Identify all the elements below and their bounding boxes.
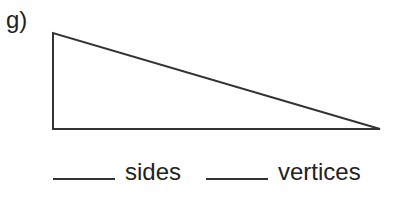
- sides-label: sides: [125, 158, 181, 185]
- sides-answer: sides: [53, 156, 181, 186]
- vertices-blank[interactable]: [206, 156, 268, 180]
- sides-blank[interactable]: [53, 156, 115, 180]
- vertices-answer: vertices: [206, 156, 361, 186]
- vertices-label: vertices: [278, 158, 361, 185]
